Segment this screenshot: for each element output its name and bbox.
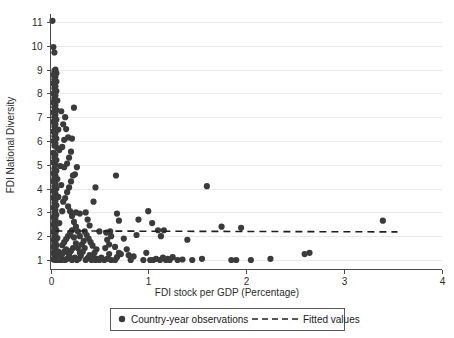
data-point — [124, 246, 130, 252]
legend-marker-icon — [119, 316, 125, 322]
data-point — [62, 114, 68, 120]
data-point — [130, 253, 136, 259]
x-axis-title: FDI stock per GDP (Percentage) — [155, 287, 299, 298]
data-point — [118, 251, 124, 257]
plot-canvas: 123456789101101234 FDI stock per GDP (Pe… — [0, 0, 454, 338]
y-tick-label-10: 10 — [31, 41, 43, 52]
data-point — [189, 257, 195, 263]
x-tick-label-1: 1 — [146, 276, 152, 287]
data-point — [74, 164, 80, 170]
data-point — [140, 257, 146, 263]
data-point — [66, 184, 72, 190]
data-point — [106, 251, 112, 257]
data-point — [238, 225, 244, 231]
data-point — [121, 235, 127, 241]
data-point — [83, 209, 89, 215]
y-tick-label-11: 11 — [32, 17, 43, 28]
data-point — [199, 256, 205, 262]
data-point — [69, 136, 75, 142]
data-point — [161, 227, 167, 233]
chart-legend: Country-year observations Fitted values — [110, 308, 360, 330]
data-point — [58, 108, 64, 114]
data-point — [179, 256, 185, 262]
data-point — [267, 256, 273, 262]
y-tick-label-8: 8 — [37, 88, 43, 99]
y-axis-title: FDI National Diversity — [5, 97, 16, 194]
y-tick-label-6: 6 — [37, 136, 43, 147]
data-point — [87, 222, 93, 228]
data-point — [116, 218, 122, 224]
data-point — [85, 216, 91, 222]
data-point — [306, 250, 312, 256]
data-point — [50, 44, 56, 50]
legend-label-fitted: Fitted values — [303, 314, 360, 325]
data-point — [155, 227, 161, 233]
data-point — [149, 220, 155, 226]
data-point — [114, 210, 120, 216]
x-tick-label-2: 2 — [244, 276, 250, 287]
y-tick-label-1: 1 — [37, 255, 43, 266]
y-tick-label-3: 3 — [37, 207, 43, 218]
data-point — [59, 144, 65, 150]
data-point — [68, 178, 74, 184]
fitted-values-line — [55, 231, 397, 232]
x-tick-label-4: 4 — [440, 276, 446, 287]
scatter-plot-figure: 123456789101101234 FDI stock per GDP (Pe… — [0, 0, 454, 338]
data-point — [248, 257, 254, 263]
data-point — [71, 105, 77, 111]
data-point — [380, 218, 386, 224]
data-point — [59, 208, 65, 214]
data-point — [64, 161, 70, 167]
data-point — [145, 208, 151, 214]
data-point — [112, 244, 118, 250]
data-point — [204, 183, 210, 189]
data-point — [68, 149, 74, 155]
data-point — [72, 171, 78, 177]
x-tick-label-3: 3 — [342, 276, 348, 287]
data-point — [218, 224, 224, 230]
y-tick-label-7: 7 — [37, 112, 43, 123]
y-tick-label-4: 4 — [37, 184, 43, 195]
data-point — [60, 121, 66, 127]
y-tick-label-9: 9 — [37, 65, 43, 76]
data-point — [135, 216, 141, 222]
data-point — [233, 257, 239, 263]
data-point — [158, 233, 164, 239]
y-tick-label-5: 5 — [37, 160, 43, 171]
data-point — [51, 49, 57, 55]
y-tick-label-2: 2 — [37, 231, 43, 242]
data-point — [90, 199, 96, 205]
data-point — [77, 210, 83, 216]
data-point — [71, 219, 77, 225]
data-point — [65, 203, 71, 209]
data-point — [66, 155, 72, 161]
x-tick-label-0: 0 — [49, 276, 55, 287]
data-point — [113, 172, 119, 178]
data-point — [71, 234, 77, 240]
data-point — [133, 232, 139, 238]
legend-label-observations: Country-year observations — [131, 314, 248, 325]
data-point — [184, 237, 190, 243]
data-point — [143, 250, 149, 256]
data-point — [92, 184, 98, 190]
data-point — [62, 195, 68, 201]
fitted-line-group — [55, 231, 397, 232]
